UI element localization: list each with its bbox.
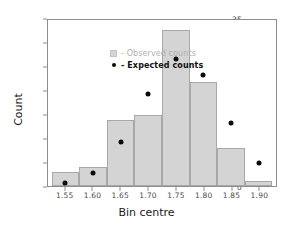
expected-count-point — [118, 139, 123, 144]
legend-label-observed: - Observed counts — [121, 49, 196, 58]
plot-area: - Observed counts - Expected counts — [47, 19, 277, 187]
expected-count-point — [63, 181, 68, 186]
legend-label-expected: - Expected counts — [121, 61, 203, 70]
y-axis-label: Count — [12, 70, 25, 150]
x-axis-label: Bin centre — [0, 206, 293, 219]
expected-count-point — [228, 121, 233, 126]
x-tick-mark — [148, 187, 149, 191]
x-tick-label: 1.65 — [112, 191, 130, 200]
x-tick-label: 1.85 — [223, 191, 241, 200]
x-tick-mark — [92, 187, 93, 191]
dot-marker-icon — [110, 62, 117, 69]
x-tick-mark — [120, 187, 121, 191]
x-tick-label: 1.75 — [167, 191, 185, 200]
expected-counts-points — [48, 20, 276, 186]
legend-item-observed: - Observed counts — [110, 47, 250, 59]
legend-item-expected: - Expected counts — [110, 59, 250, 71]
expected-count-point — [91, 171, 96, 176]
expected-count-point — [256, 161, 261, 166]
square-swatch-icon — [110, 50, 117, 57]
x-tick-label: 1.70 — [139, 191, 157, 200]
x-tick-mark — [259, 187, 260, 191]
x-tick-label: 1.55 — [56, 191, 74, 200]
x-tick-mark — [231, 187, 232, 191]
x-tick-label: 1.80 — [195, 191, 213, 200]
x-tick-label: 1.90 — [251, 191, 269, 200]
histogram-figure: Count 05101520253035 1.551.601.651.701.7… — [0, 0, 293, 229]
x-tick-mark — [203, 187, 204, 191]
x-tick-label: 1.60 — [84, 191, 102, 200]
expected-count-point — [146, 91, 151, 96]
expected-count-point — [201, 73, 206, 78]
x-tick-mark — [175, 187, 176, 191]
x-tick-mark — [64, 187, 65, 191]
chart-legend: - Observed counts - Expected counts — [110, 47, 250, 71]
